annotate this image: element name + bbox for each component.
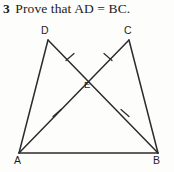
segment-bd xyxy=(48,40,158,153)
vertex-label-a: A xyxy=(14,155,21,166)
segment-ac xyxy=(19,40,129,153)
tick-mark-ce xyxy=(104,54,112,61)
vertex-label-b: B xyxy=(153,155,160,166)
geometry-figure: D C E A B xyxy=(0,0,174,172)
vertex-label-c: C xyxy=(124,25,132,36)
vertex-label-e: E xyxy=(84,80,90,90)
tick-mark-de xyxy=(66,54,74,61)
segment-bc xyxy=(129,40,158,153)
tick-mark-ae xyxy=(53,110,61,117)
segments-group xyxy=(19,40,158,153)
vertex-label-d: D xyxy=(41,25,49,36)
segment-ad xyxy=(19,40,48,153)
exercise-page: 3 Prove that AD = BC. D C E A B xyxy=(0,0,174,172)
